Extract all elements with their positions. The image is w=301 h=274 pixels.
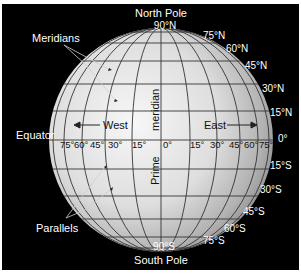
south-pole-label: South Pole: [134, 254, 188, 266]
lat-label-90n: 90°N: [154, 20, 176, 31]
lon-label-75e: 75°: [259, 139, 274, 150]
lat-label-90s: 90°S: [153, 241, 175, 252]
lat-label-15s: 15°S: [270, 160, 292, 171]
lat-label-equator: 0°: [278, 133, 288, 144]
lat-label-30n: 30°N: [262, 83, 284, 94]
lat-label-60s: 60°S: [224, 223, 246, 234]
north-pole-label: North Pole: [135, 7, 187, 19]
lon-label-prime: 0°: [163, 139, 172, 150]
lon-label-45w: 45°: [90, 139, 105, 150]
west-label: West: [103, 119, 128, 131]
lat-label-30s: 30°S: [260, 184, 282, 195]
lon-label-60w: 60°: [74, 139, 89, 150]
lat-label-60n: 60°N: [226, 43, 248, 54]
lon-label-15e: 15°: [190, 139, 205, 150]
lon-label-30e: 30°: [210, 139, 225, 150]
equator-label: Equator: [16, 129, 55, 141]
parallels-label: Parallels: [36, 222, 79, 234]
lat-label-45n: 45°N: [245, 60, 267, 71]
meridians-label: Meridians: [32, 32, 80, 44]
lon-label-30w: 30°: [108, 139, 123, 150]
lon-label-75w: 75°: [60, 139, 75, 150]
east-label: East: [204, 119, 226, 131]
lon-label-45e: 45°: [229, 139, 244, 150]
prime-meridian-label-top: meridian: [149, 89, 161, 131]
lon-label-60e: 60°: [244, 139, 259, 150]
lon-label-15w: 15°: [132, 139, 147, 150]
lat-label-45s: 45°S: [243, 206, 265, 217]
lat-label-15n: 15°N: [270, 107, 292, 118]
lat-label-75n: 75°N: [203, 30, 225, 41]
prime-meridian-label-bottom: Prime: [149, 156, 161, 185]
globe-diagram: Meridians Parallels Equator North Pole S…: [0, 0, 301, 274]
lat-label-75s: 75°S: [203, 235, 225, 246]
